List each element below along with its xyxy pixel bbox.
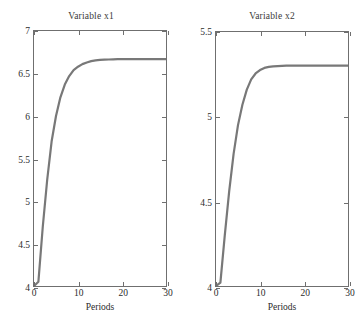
- x-tick-label: 10: [256, 288, 266, 298]
- x-tick-label: 10: [74, 288, 84, 298]
- y-tick-mark: [162, 117, 166, 118]
- x-tick-mark: [261, 32, 262, 36]
- plot-area-x2: 44.555.50102030: [215, 31, 349, 287]
- chart-title-x1: Variable x1: [0, 11, 182, 21]
- x-tick-label: 0: [32, 288, 37, 298]
- x-axis-label-x1: Periods: [33, 302, 167, 312]
- x-tick-label: 30: [163, 288, 173, 298]
- y-tick-label: 4: [207, 283, 212, 293]
- y-tick-mark: [162, 74, 166, 75]
- y-tick-mark: [344, 117, 348, 118]
- line-series-x1: [34, 31, 166, 286]
- y-tick-label: 5.5: [200, 27, 212, 37]
- y-tick-label: 4.5: [18, 240, 30, 250]
- x-tick-mark: [123, 31, 124, 35]
- x-tick-label: 20: [119, 288, 129, 298]
- figure-two-panel-line-charts: Variable x1 44.555.566.570102030 Periods…: [0, 0, 363, 331]
- x-tick-mark: [123, 282, 124, 286]
- y-tick-mark: [162, 160, 166, 161]
- chart-title-x2: Variable x2: [181, 11, 363, 21]
- x-tick-mark: [305, 32, 306, 36]
- y-tick-mark: [162, 31, 166, 32]
- y-tick-mark: [34, 74, 38, 75]
- y-tick-mark: [162, 245, 166, 246]
- x-tick-label: 30: [345, 288, 355, 298]
- panel-variable-x1: Variable x1 44.555.566.570102030 Periods: [0, 0, 182, 331]
- y-tick-label: 5: [207, 112, 212, 122]
- y-tick-mark: [34, 160, 38, 161]
- plot-area-x1: 44.555.566.570102030: [33, 30, 167, 287]
- x-tick-mark: [261, 282, 262, 286]
- x-tick-mark: [79, 31, 80, 35]
- y-tick-mark: [216, 203, 220, 204]
- x-tick-mark: [168, 31, 169, 35]
- y-tick-mark: [162, 202, 166, 203]
- y-tick-label: 4.5: [200, 198, 212, 208]
- line-series-x2: [216, 32, 348, 286]
- x-tick-mark: [216, 32, 217, 36]
- y-tick-mark: [344, 203, 348, 204]
- x-tick-mark: [350, 32, 351, 36]
- y-tick-mark: [34, 117, 38, 118]
- x-tick-mark: [305, 282, 306, 286]
- y-tick-label: 5.5: [18, 155, 30, 165]
- y-tick-label: 7: [25, 26, 30, 36]
- series-line-x2: [216, 66, 348, 286]
- x-tick-mark: [34, 282, 35, 286]
- x-tick-mark: [168, 282, 169, 286]
- x-tick-mark: [34, 31, 35, 35]
- panel-variable-x2: Variable x2 44.555.50102030 Periods: [181, 0, 363, 331]
- x-tick-mark: [79, 282, 80, 286]
- x-tick-mark: [216, 282, 217, 286]
- y-tick-mark: [34, 202, 38, 203]
- series-line-x1: [34, 59, 166, 286]
- y-tick-mark: [344, 32, 348, 33]
- y-tick-label: 5: [25, 197, 30, 207]
- x-tick-label: 20: [301, 288, 311, 298]
- y-tick-label: 6: [25, 112, 30, 122]
- y-tick-mark: [34, 245, 38, 246]
- y-tick-mark: [216, 117, 220, 118]
- x-tick-label: 0: [214, 288, 219, 298]
- y-tick-label: 4: [25, 283, 30, 293]
- x-axis-label-x2: Periods: [215, 302, 349, 312]
- x-tick-mark: [350, 282, 351, 286]
- y-tick-label: 6.5: [18, 69, 30, 79]
